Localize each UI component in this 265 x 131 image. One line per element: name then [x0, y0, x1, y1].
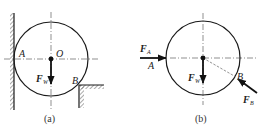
label-B: B	[237, 71, 243, 82]
label-FW: F W	[187, 72, 201, 84]
caption-a: (a)	[44, 113, 55, 125]
figure-b: F A A B F W F B (b)	[139, 13, 257, 125]
step-support	[79, 85, 104, 108]
figure-a: O A B F W (a)	[4, 12, 104, 125]
label-W-subscript: W	[43, 79, 49, 85]
label-B: B	[72, 75, 78, 86]
label-W-subscript: W	[195, 78, 201, 84]
label-F: F	[187, 72, 195, 83]
label-A: A	[18, 48, 26, 59]
line-center-to-B	[203, 58, 236, 77]
step-hatch-side	[80, 85, 84, 108]
label-FW: F W	[35, 73, 49, 85]
wall	[10, 13, 14, 110]
label-A-subscript: A	[146, 49, 151, 55]
label-FA: F A	[139, 43, 151, 55]
label-O: O	[56, 48, 63, 59]
label-F: F	[139, 43, 147, 54]
label-F: F	[242, 94, 250, 105]
label-A: A	[147, 60, 155, 71]
mechanics-diagram: O A B F W (a) F A A B F	[0, 0, 265, 131]
label-FB: F B	[242, 94, 254, 106]
label-B-subscript: B	[250, 100, 254, 106]
label-F: F	[35, 73, 43, 84]
caption-b: (b)	[195, 113, 207, 125]
